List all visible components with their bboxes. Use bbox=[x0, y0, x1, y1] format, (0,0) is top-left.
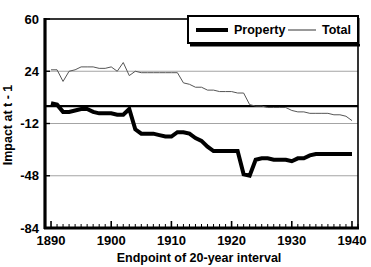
y-tick-label: 24 bbox=[25, 64, 40, 79]
x-tick-label: 1900 bbox=[97, 233, 126, 248]
x-tick-label: 1920 bbox=[217, 233, 246, 248]
legend-box-shadow-right bbox=[357, 18, 360, 46]
chart-figure: -84-48-122460 189019001910192019301940 E… bbox=[0, 0, 371, 267]
x-tick-label: 1940 bbox=[338, 233, 367, 248]
y-tick-label: -48 bbox=[20, 168, 39, 183]
legend-label-total: Total bbox=[322, 23, 351, 37]
legend-label-property: Property bbox=[234, 23, 285, 37]
y-tick-label: -12 bbox=[20, 116, 39, 131]
legend: Property Total bbox=[188, 16, 360, 47]
y-axis-title: Impact at t - 1 bbox=[1, 85, 15, 166]
y-tick-label: 60 bbox=[25, 12, 39, 27]
x-axis-title: Endpoint of 20-year interval bbox=[117, 251, 282, 265]
x-tick-label: 1910 bbox=[157, 233, 186, 248]
line-chart: -84-48-122460 189019001910192019301940 E… bbox=[0, 0, 371, 267]
x-tick-label: 1930 bbox=[277, 233, 306, 248]
legend-box-shadow-bottom bbox=[190, 44, 360, 47]
x-tick-label: 1890 bbox=[37, 233, 66, 248]
